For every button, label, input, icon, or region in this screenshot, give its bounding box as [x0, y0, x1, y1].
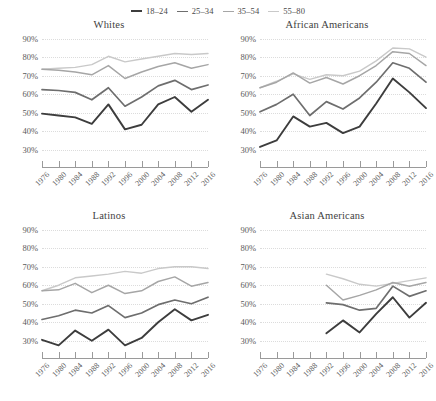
x-axis-tick-label: 1996	[116, 170, 134, 188]
y-axis-tick-label: 70%	[22, 262, 38, 272]
x-axis-tick	[393, 352, 394, 358]
y-axis-tick-label: 80%	[240, 243, 256, 253]
x-axis-tick	[175, 161, 176, 167]
chart-legend: 18–2425–3435–5455–80	[0, 3, 436, 19]
x-axis-tick	[125, 161, 126, 167]
x-axis-tick	[208, 161, 209, 167]
series-layer	[260, 226, 426, 350]
gridlines: 30%40%50%60%70%80%90%	[42, 226, 208, 350]
x-axis-tick-label: 2008	[166, 170, 184, 188]
x-axis-tick	[142, 161, 143, 167]
x-axis-tick-label: 1996	[116, 361, 134, 379]
x-axis-tick-label: 2008	[384, 361, 402, 379]
series-line	[42, 63, 208, 79]
y-axis-tick-label: 60%	[22, 280, 38, 290]
y-axis-tick-label: 60%	[240, 89, 256, 99]
x-axis-tick-label: 2004	[150, 361, 168, 379]
x-axis-tick	[208, 352, 209, 358]
x-axis-tick-label: 2016	[199, 361, 217, 379]
x-axis-tick	[142, 352, 143, 358]
y-axis-tick-label: 80%	[22, 243, 38, 253]
x-axis-tick	[260, 161, 261, 167]
x-axis-tick	[260, 352, 261, 358]
legend-swatch-icon	[223, 11, 234, 12]
y-axis-tick-label: 50%	[240, 299, 256, 309]
x-axis-tick-label: 2000	[351, 170, 369, 188]
x-axis-tick-label: 2004	[368, 170, 386, 188]
x-axis-tick	[158, 352, 159, 358]
chart-panel: Whites30%40%50%60%70%80%90%1976198019841…	[0, 18, 218, 209]
legend-entry: 55–80	[268, 6, 305, 16]
x-axis-line	[260, 167, 426, 168]
panel-title: African Americans	[218, 19, 436, 30]
series-line	[42, 97, 208, 129]
x-axis-tick-label: 2000	[133, 361, 151, 379]
chart-panel: Asian Americans30%40%50%60%70%80%90%1976…	[218, 209, 436, 400]
x-axis-tick-label: 2004	[150, 170, 168, 188]
x-axis-tick	[343, 161, 344, 167]
x-axis-tick-label: 1976	[251, 170, 269, 188]
panel-title: Whites	[0, 19, 218, 30]
x-axis-tick	[426, 352, 427, 358]
x-axis-tick-label: 1984	[285, 170, 303, 188]
x-axis-tick	[326, 352, 327, 358]
y-axis-tick-label: 70%	[22, 71, 38, 81]
x-axis-tick	[175, 352, 176, 358]
x-axis-tick-label: 1988	[83, 170, 101, 188]
x-axis-tick-label: 1980	[50, 170, 68, 188]
series-line	[326, 297, 426, 333]
y-axis-tick-label: 40%	[22, 317, 38, 327]
x-axis-tick-label: 1984	[67, 170, 85, 188]
x-axis-tick	[191, 352, 192, 358]
x-axis-tick	[326, 161, 327, 167]
x-axis-tick-label: 1988	[301, 361, 319, 379]
series-line	[42, 54, 208, 70]
y-axis-tick-label: 50%	[240, 108, 256, 118]
series-line	[260, 78, 426, 146]
legend-entry: 18–24	[131, 6, 168, 16]
x-axis-tick	[42, 352, 43, 358]
panel-title: Latinos	[0, 210, 218, 221]
x-axis-tick-label: 1984	[285, 361, 303, 379]
x-axis-tick-label: 1976	[251, 361, 269, 379]
x-axis-tick	[59, 352, 60, 358]
x-axis-line	[260, 358, 426, 359]
x-axis-tick-label: 1988	[301, 170, 319, 188]
x-axis-tick	[191, 161, 192, 167]
y-axis-tick-label: 80%	[240, 52, 256, 62]
gridlines: 30%40%50%60%70%80%90%	[42, 35, 208, 159]
x-axis-tick	[75, 352, 76, 358]
y-axis-tick-label: 30%	[22, 336, 38, 346]
x-axis-tick-label: 1976	[33, 170, 51, 188]
x-axis-tick-label: 1980	[268, 170, 286, 188]
series-line	[42, 297, 208, 319]
gridlines: 30%40%50%60%70%80%90%	[260, 35, 426, 159]
x-axis-tick	[376, 352, 377, 358]
x-axis-tick	[108, 352, 109, 358]
legend-label: 18–24	[146, 6, 168, 16]
chart-panel: Latinos30%40%50%60%70%80%90%197619801984…	[0, 209, 218, 400]
legend-label: 35–54	[238, 6, 260, 16]
x-axis-tick-label: 2000	[133, 170, 151, 188]
legend-swatch-icon	[268, 11, 279, 12]
y-axis-tick-label: 90%	[240, 34, 256, 44]
series-line	[326, 274, 426, 286]
legend-swatch-icon	[131, 10, 142, 12]
x-axis-tick-label: 1984	[67, 361, 85, 379]
x-axis-tick	[75, 161, 76, 167]
x-axis-tick-label: 1980	[268, 361, 286, 379]
x-axis-tick	[59, 161, 60, 167]
y-axis-tick-label: 90%	[240, 225, 256, 235]
x-axis-tick	[409, 161, 410, 167]
x-axis-tick-label: 1996	[334, 170, 352, 188]
y-axis-tick-label: 70%	[240, 71, 256, 81]
x-axis-tick	[92, 352, 93, 358]
x-axis-tick-label: 2000	[351, 361, 369, 379]
panel-title: Asian Americans	[218, 210, 436, 221]
series-line	[260, 52, 426, 88]
legend-entry: 35–54	[223, 6, 260, 16]
x-axis-tick-label: 2008	[384, 170, 402, 188]
series-line	[260, 48, 426, 88]
x-axis-tick	[343, 352, 344, 358]
x-axis-tick	[409, 352, 410, 358]
